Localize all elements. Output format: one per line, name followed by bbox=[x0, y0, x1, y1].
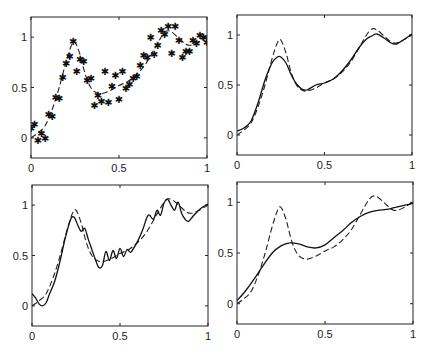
asterisk-marker: ✱ bbox=[115, 94, 123, 105]
asterisk-marker: ✱ bbox=[118, 66, 126, 77]
y-tick-label: 0.5 bbox=[218, 247, 233, 259]
asterisk-marker: ✱ bbox=[203, 37, 211, 48]
axes-box bbox=[32, 185, 208, 326]
asterisk-marker: ✱ bbox=[66, 51, 74, 62]
solid-estimate-line bbox=[237, 34, 412, 131]
x-tick-label: 0.5 bbox=[317, 328, 332, 340]
y-tick-label: 0 bbox=[21, 132, 27, 144]
asterisk-marker: ✱ bbox=[168, 48, 176, 59]
asterisk-marker: ✱ bbox=[41, 133, 49, 144]
y-tick-label: 0.5 bbox=[12, 82, 27, 94]
asterisk-marker: ✱ bbox=[175, 35, 183, 46]
asterisk-marker: ✱ bbox=[154, 40, 162, 51]
y-tick-label: 0 bbox=[227, 298, 233, 310]
plot-area bbox=[237, 196, 413, 304]
solid-estimate-line bbox=[237, 203, 413, 300]
figure-2x2-subplots: 00.5100.51✱✱✱✱✱✱✱✱✱✱✱✱✱✱✱✱✱✱✱✱✱✱✱✱✱✱✱✱✱✱… bbox=[0, 0, 431, 354]
x-tick-label: 0.5 bbox=[112, 330, 127, 342]
subplot-top-right: 00.5100.51 bbox=[218, 15, 415, 171]
asterisk-marker: ✱ bbox=[104, 97, 112, 108]
y-tick-label: 1 bbox=[21, 31, 27, 43]
asterisk-marker: ✱ bbox=[58, 72, 66, 83]
plot-area: ✱✱✱✱✱✱✱✱✱✱✱✱✱✱✱✱✱✱✱✱✱✱✱✱✱✱✱✱✱✱✱✱✱✱✱✱✱✱✱✱… bbox=[27, 21, 211, 146]
y-tick-label: 0 bbox=[22, 300, 28, 312]
asterisk-marker: ✱ bbox=[80, 56, 88, 67]
y-tick-label: 0.5 bbox=[13, 250, 28, 262]
asterisk-marker: ✱ bbox=[87, 73, 95, 84]
x-tick-label: 0 bbox=[29, 330, 35, 342]
y-tick-label: 1 bbox=[227, 196, 233, 208]
asterisk-marker: ✱ bbox=[48, 111, 56, 122]
plot-area bbox=[237, 29, 412, 135]
x-tick-label: 1 bbox=[410, 328, 416, 340]
asterisk-marker: ✱ bbox=[108, 81, 116, 92]
asterisk-marker: ✱ bbox=[55, 93, 63, 104]
x-tick-label: 1 bbox=[204, 162, 210, 174]
asterisk-marker: ✱ bbox=[171, 21, 179, 32]
asterisk-marker: ✱ bbox=[132, 71, 140, 82]
solid-estimate-line bbox=[32, 199, 208, 306]
subplot-top-left: 00.5100.51✱✱✱✱✱✱✱✱✱✱✱✱✱✱✱✱✱✱✱✱✱✱✱✱✱✱✱✱✱✱… bbox=[12, 17, 211, 174]
x-tick-label: 0 bbox=[234, 328, 240, 340]
plot-area bbox=[32, 199, 208, 306]
x-tick-label: 0.5 bbox=[317, 159, 332, 171]
asterisk-marker: ✱ bbox=[73, 66, 81, 77]
x-tick-label: 1 bbox=[409, 159, 415, 171]
y-tick-label: 0 bbox=[227, 129, 233, 141]
dashed-true-function-line bbox=[31, 31, 207, 138]
x-tick-label: 1 bbox=[205, 330, 211, 342]
y-tick-label: 1 bbox=[227, 29, 233, 41]
dashed-true-function-line bbox=[237, 29, 412, 135]
dashed-true-function-line bbox=[237, 196, 413, 304]
axes-box bbox=[237, 182, 413, 324]
x-tick-label: 0.5 bbox=[111, 162, 126, 174]
subplot-bottom-left: 00.5100.51 bbox=[13, 185, 211, 342]
x-tick-label: 0 bbox=[234, 159, 240, 171]
y-tick-label: 0.5 bbox=[218, 79, 233, 91]
y-tick-label: 1 bbox=[22, 199, 28, 211]
x-tick-label: 0 bbox=[28, 162, 34, 174]
subplot-bottom-right: 00.5100.51 bbox=[218, 182, 416, 340]
asterisk-marker: ✱ bbox=[69, 36, 77, 47]
asterisk-marker: ✱ bbox=[101, 66, 109, 77]
